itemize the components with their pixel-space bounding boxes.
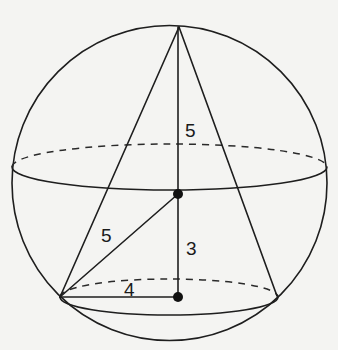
sphere-center-point xyxy=(173,189,183,199)
sphere-radius-to-base-edge xyxy=(60,194,178,297)
label-center-to-base-height: 3 xyxy=(186,238,197,259)
label-upper-radius: 5 xyxy=(185,120,196,141)
label-base-radius: 4 xyxy=(124,279,135,300)
base-center-point xyxy=(173,292,183,302)
diagram-canvas: 5 5 3 4 xyxy=(0,0,338,350)
equator-front-arc xyxy=(12,167,327,190)
cone-left-slant-edge xyxy=(60,27,179,297)
equator-back-dashed-arc xyxy=(12,144,327,167)
cone-base-back-dashed-arc xyxy=(60,279,278,297)
cone-base-front-arc xyxy=(60,297,278,315)
label-slant-radius: 5 xyxy=(101,225,112,246)
cone-in-sphere-diagram: 5 5 3 4 xyxy=(0,0,338,350)
